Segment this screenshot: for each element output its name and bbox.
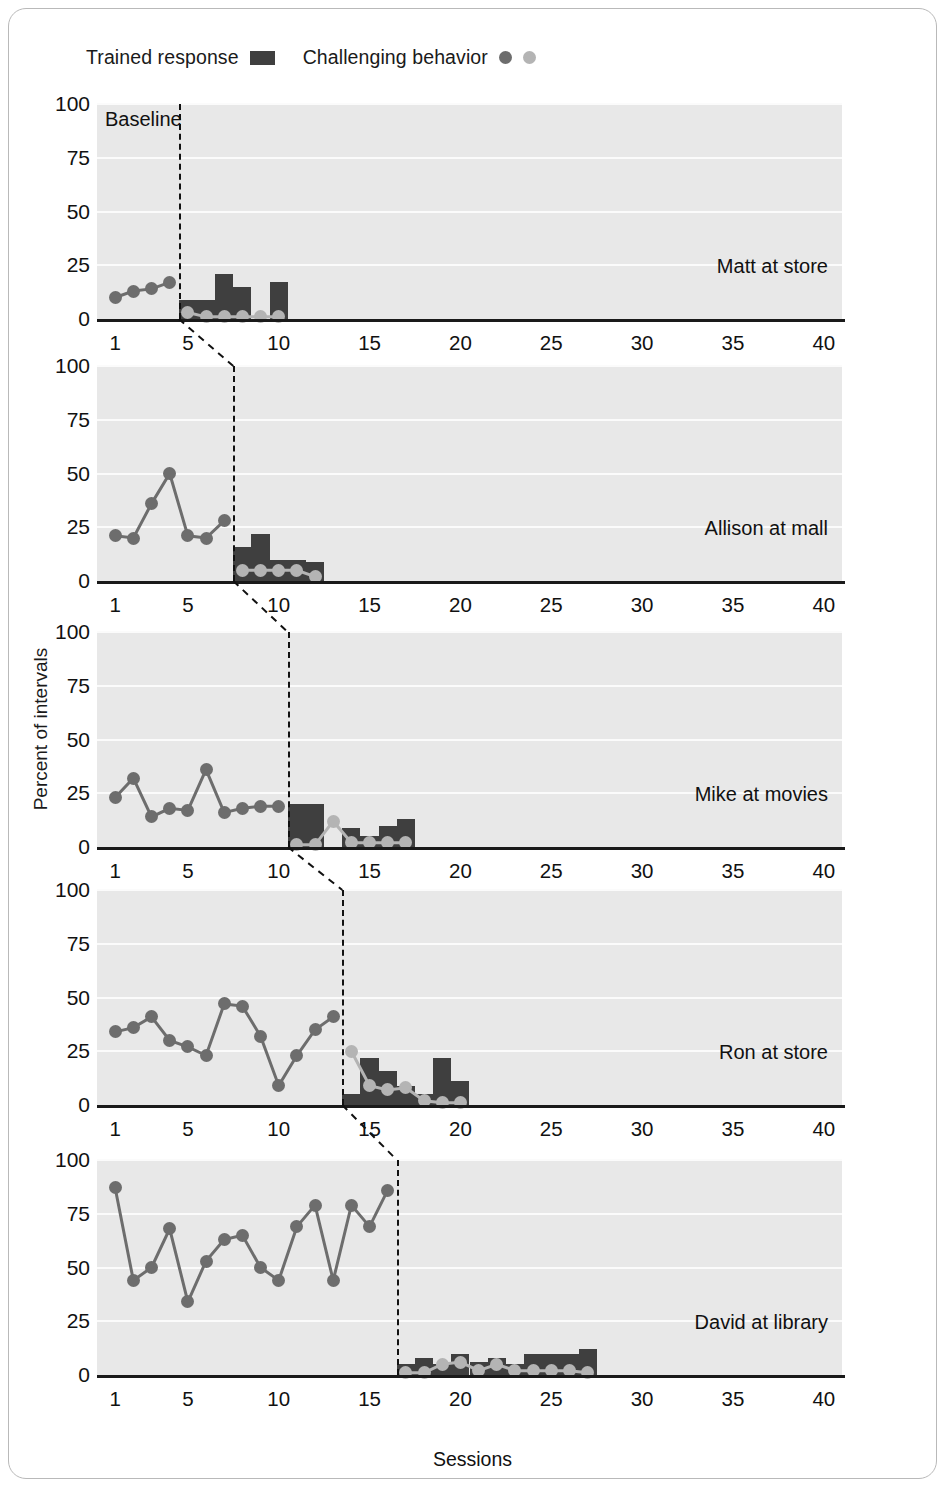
panel-title: Matt at store — [717, 255, 828, 278]
x-tick-label: 10 — [257, 1389, 301, 1410]
baseline-data-point — [218, 514, 231, 527]
x-tick-label: 5 — [166, 1119, 210, 1140]
series-lines — [97, 366, 842, 581]
x-tick-label: 1 — [93, 595, 137, 616]
plot-area: Mike at movies — [97, 632, 842, 847]
x-tick-label: 30 — [620, 1389, 664, 1410]
intervention-data-point — [254, 564, 267, 577]
panel-mike-at-movies: Mike at movies02550751001510152025303540 — [0, 632, 945, 917]
intervention-data-point — [272, 564, 285, 577]
x-tick-label: 20 — [438, 1119, 482, 1140]
x-tick-label: 35 — [711, 1389, 755, 1410]
series-lines — [97, 104, 842, 319]
baseline-data-point — [127, 1021, 140, 1034]
x-tick-label: 5 — [166, 333, 210, 354]
x-tick-label: 20 — [438, 861, 482, 882]
y-tick-label: 25 — [40, 782, 90, 803]
x-axis-line — [97, 581, 845, 584]
baseline-data-point — [272, 800, 285, 813]
baseline-data-point — [218, 806, 231, 819]
y-tick-label: 75 — [40, 1203, 90, 1224]
x-tick-label: 1 — [93, 1119, 137, 1140]
y-tick-label: 100 — [40, 879, 90, 900]
baseline-data-point — [200, 763, 213, 776]
baseline-data-point — [381, 1184, 394, 1197]
panel-ron-at-store: Ron at store02550751001510152025303540 — [0, 890, 945, 1175]
y-tick-label: 75 — [40, 409, 90, 430]
y-axis-ticks: 0255075100 — [34, 104, 90, 319]
y-tick-label: 0 — [40, 1364, 90, 1385]
x-tick-label: 1 — [93, 861, 137, 882]
intervention-data-point — [490, 1358, 503, 1371]
y-tick-label: 50 — [40, 1257, 90, 1278]
plot-area: David at library — [97, 1160, 842, 1375]
x-tick-label: 35 — [711, 861, 755, 882]
y-tick-label: 50 — [40, 201, 90, 222]
x-tick-label: 5 — [166, 861, 210, 882]
x-tick-label: 25 — [529, 1119, 573, 1140]
series-line — [115, 282, 170, 297]
x-tick-label: 35 — [711, 595, 755, 616]
baseline-data-point — [127, 772, 140, 785]
y-tick-label: 100 — [40, 93, 90, 114]
x-tick-label: 5 — [166, 1389, 210, 1410]
chart-legend: Trained response Challenging behavior — [86, 46, 536, 69]
x-tick-label: 30 — [620, 333, 664, 354]
plot-area: Ron at store — [97, 890, 842, 1105]
dark-circle-icon — [499, 51, 512, 64]
phase-change-line — [233, 366, 235, 581]
light-circle-icon — [523, 51, 536, 64]
baseline-data-point — [236, 802, 249, 815]
x-tick-label: 40 — [802, 333, 846, 354]
x-axis-title: Sessions — [0, 1448, 945, 1471]
y-tick-label: 0 — [40, 570, 90, 591]
y-tick-label: 50 — [40, 729, 90, 750]
y-tick-label: 100 — [40, 1149, 90, 1170]
baseline-data-point — [200, 1255, 213, 1268]
x-tick-label: 10 — [257, 1119, 301, 1140]
x-tick-label: 15 — [348, 861, 392, 882]
baseline-data-point — [236, 1229, 249, 1242]
baseline-data-point — [127, 532, 140, 545]
bar-swatch-icon — [250, 51, 275, 65]
y-axis-ticks: 0255075100 — [34, 366, 90, 581]
y-tick-label: 100 — [40, 621, 90, 642]
baseline-data-point — [109, 1025, 122, 1038]
x-tick-label: 10 — [257, 861, 301, 882]
x-tick-label: 20 — [438, 333, 482, 354]
y-tick-label: 75 — [40, 933, 90, 954]
x-tick-label: 5 — [166, 595, 210, 616]
panel-title: Ron at store — [719, 1041, 828, 1064]
phase-change-line — [342, 890, 344, 1105]
series-lines — [97, 632, 842, 847]
y-axis-ticks: 0255075100 — [34, 890, 90, 1105]
plot-area: Allison at mall — [97, 366, 842, 581]
baseline-data-point — [109, 791, 122, 804]
y-tick-label: 25 — [40, 1040, 90, 1061]
baseline-data-point — [254, 800, 267, 813]
y-tick-label: 75 — [40, 675, 90, 696]
x-tick-label: 40 — [802, 595, 846, 616]
x-tick-label: 15 — [348, 333, 392, 354]
y-axis-ticks: 0255075100 — [34, 1160, 90, 1375]
x-tick-label: 25 — [529, 595, 573, 616]
x-tick-label: 30 — [620, 595, 664, 616]
baseline-data-point — [309, 1023, 322, 1036]
baseline-data-point — [127, 285, 140, 298]
x-tick-label: 30 — [620, 861, 664, 882]
figure-page: Trained response Challenging behavior Pe… — [0, 0, 945, 1487]
panel-title: David at library — [695, 1311, 828, 1334]
y-tick-label: 0 — [40, 1094, 90, 1115]
intervention-data-point — [345, 1045, 358, 1058]
x-tick-label: 10 — [257, 595, 301, 616]
x-tick-label: 25 — [529, 1389, 573, 1410]
baseline-data-point — [254, 1261, 267, 1274]
phase-change-line — [288, 632, 290, 847]
legend-label-challenging-behavior: Challenging behavior — [303, 46, 488, 69]
x-axis-line — [97, 847, 845, 850]
x-tick-label: 20 — [438, 1389, 482, 1410]
baseline-data-point — [236, 1000, 249, 1013]
x-tick-label: 40 — [802, 1119, 846, 1140]
y-tick-label: 100 — [40, 355, 90, 376]
baseline-data-point — [127, 1274, 140, 1287]
